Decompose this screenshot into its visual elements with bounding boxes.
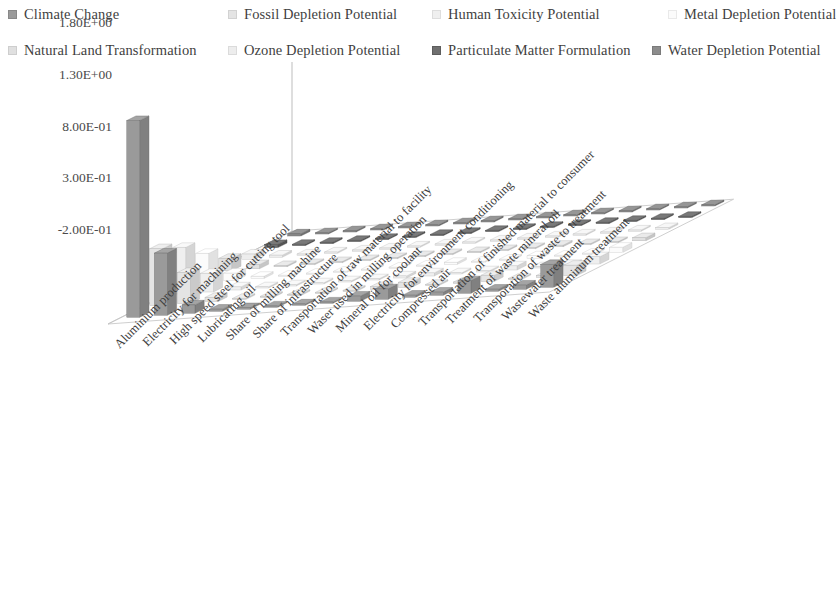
legend-item-label: Fossil Depletion Potential (244, 6, 397, 22)
legend-item: Water Depletion Potential (652, 42, 821, 58)
legend-item: Natural Land Transformation (8, 42, 197, 58)
legend-swatch-icon (228, 10, 237, 19)
legend-item-label: Human Toxicity Potential (448, 6, 600, 22)
legend-swatch-icon (228, 46, 237, 55)
legend-item-label: Particulate Matter Formulation (448, 42, 631, 58)
x-axis-category-labels: Aluminium productionElectricity for mach… (0, 62, 831, 596)
legend-swatch-icon (8, 10, 17, 19)
legend-item-label: Ozone Depletion Potential (244, 42, 400, 58)
legend-item: Metal Depletion Potential (668, 6, 836, 22)
legend-swatch-icon (432, 10, 441, 19)
legend-item: Fossil Depletion Potential (228, 6, 397, 22)
legend-swatch-icon (432, 46, 441, 55)
chart-plot-area: 1.80E+001.30E+008.00E-013.00E-01-2.00E-0… (0, 62, 831, 596)
legend-item-label: Water Depletion Potential (668, 42, 821, 58)
chart-legend: Climate ChangeFossil Depletion Potential… (0, 0, 831, 62)
legend-item: Ozone Depletion Potential (228, 42, 400, 58)
x-axis-category-label: Transportation of finished material to c… (415, 147, 597, 329)
legend-item: Particulate Matter Formulation (432, 42, 631, 58)
legend-swatch-icon (652, 46, 661, 55)
y-axis-tick-label: 1.80E+00 (59, 15, 112, 31)
legend-swatch-icon (668, 10, 677, 19)
legend-item-label: Natural Land Transformation (24, 42, 197, 58)
legend-swatch-icon (8, 46, 17, 55)
legend-item-label: Metal Depletion Potential (684, 6, 836, 22)
legend-item: Human Toxicity Potential (432, 6, 600, 22)
